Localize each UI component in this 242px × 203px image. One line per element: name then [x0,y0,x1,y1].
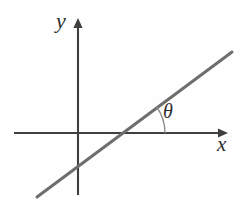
y-axis-arrowhead [73,18,82,28]
figure-canvas: y x θ [0,0,242,203]
plotted-line [37,52,232,197]
coordinate-plane-diagram [0,0,242,203]
y-axis-label: y [56,10,66,32]
angle-label-theta: θ [163,101,173,121]
x-axis-label: x [217,134,226,155]
